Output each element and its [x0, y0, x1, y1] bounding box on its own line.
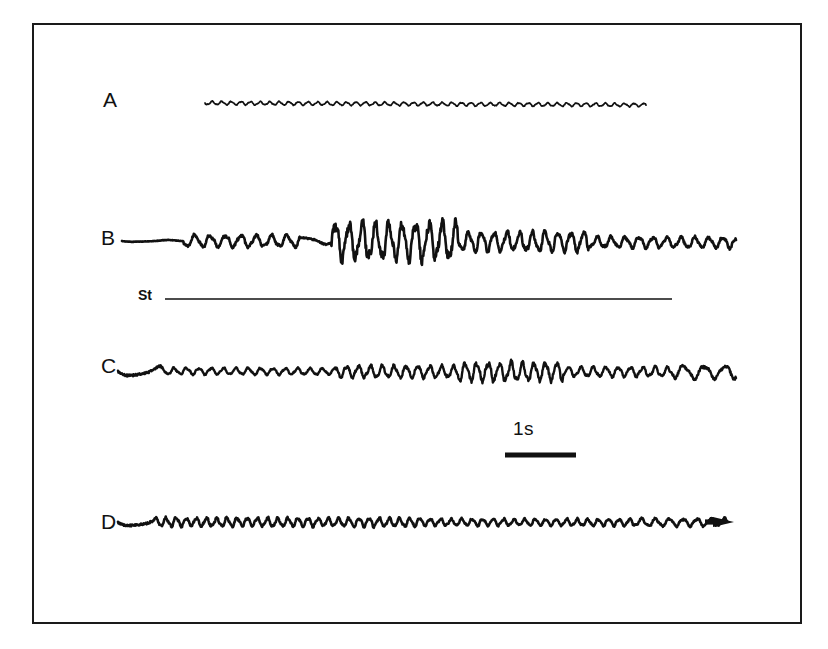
trace-label-a: A — [103, 89, 118, 110]
scale-bar-label: 1s — [513, 419, 534, 438]
figure-root: A B C D St 1s — [0, 0, 828, 649]
trace-label-d: D — [101, 511, 117, 532]
stimulus-label: St — [138, 288, 152, 302]
trace-label-b: B — [101, 227, 116, 248]
panel-frame — [32, 23, 802, 624]
trace-label-c: C — [101, 355, 117, 376]
